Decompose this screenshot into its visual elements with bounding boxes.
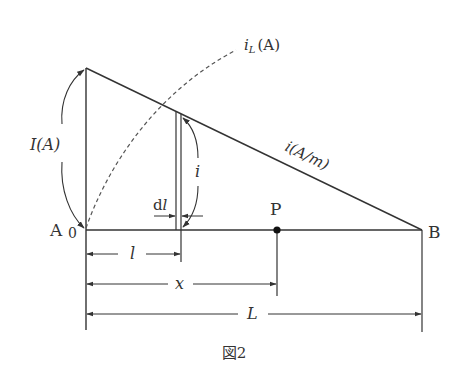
label-p: P <box>270 199 281 219</box>
label-origin: 0 <box>68 225 77 241</box>
total-current-arc-upper <box>62 70 84 124</box>
distribution-line <box>86 68 422 230</box>
dl-d: d <box>153 196 163 214</box>
point-p-dot <box>273 226 280 233</box>
load-current-unit: (A) <box>257 36 280 54</box>
label-load-current: iL(A) <box>244 36 280 55</box>
label-local-current: i <box>195 162 200 181</box>
dl-l: l <box>163 196 168 214</box>
label-dim-L: L <box>246 304 258 323</box>
label-a: A <box>49 220 63 240</box>
total-current-arc-lower <box>62 162 84 228</box>
local-current-arc-lower <box>183 186 198 227</box>
local-current-arc-upper <box>183 118 198 158</box>
label-b: B <box>428 222 441 242</box>
load-current-subscript: L <box>248 44 256 55</box>
figure-caption: 図2 <box>0 341 468 362</box>
label-dl: dl <box>153 196 168 214</box>
label-distributed-current: i(A/m) <box>282 137 332 174</box>
diagram: A 0 B P I(A) i i(A/m) iL(A) dl l x L <box>0 0 468 384</box>
label-dim-l: l <box>130 244 135 263</box>
label-dim-x: x <box>175 274 184 293</box>
label-total-current: I(A) <box>29 135 60 154</box>
